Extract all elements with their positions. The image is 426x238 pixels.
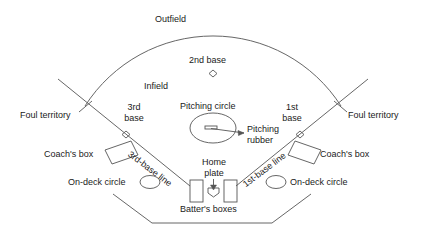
on-deck-circle-left-label: On-deck circle: [68, 177, 126, 188]
on-deck-circle-right-shape: [266, 176, 286, 189]
first-base-label-line1: 1st: [286, 102, 298, 112]
third-base-label-line2: base: [124, 113, 144, 123]
pitching-circle-shape: [190, 113, 236, 143]
coachs-box-right-shape: [288, 141, 321, 164]
third-base-label: 3rd base: [119, 102, 149, 123]
first-base-label: 1st base: [277, 102, 307, 123]
batters-boxes-label: Batter's boxes: [180, 204, 237, 215]
home-plate-label-line2: plate: [204, 168, 224, 178]
outfield-label: Outfield: [155, 14, 186, 25]
pitching-rubber-label-line2: rubber: [247, 135, 273, 145]
second-base-marker: [209, 70, 217, 77]
coachs-box-right-label: Coach's box: [320, 149, 369, 160]
third-base-label-line1: 3rd: [127, 102, 140, 112]
left-foul-line-tick: [79, 101, 92, 112]
second-base-label: 2nd base: [189, 55, 226, 66]
baseball-field-diagram: Outfield Infield 2nd base 3rd base 1st b…: [0, 0, 426, 238]
first-base-label-line2: base: [282, 113, 302, 123]
pitching-rubber-label-line1: Pitching: [247, 124, 279, 134]
foul-territory-right-label: Foul territory: [348, 110, 399, 121]
coachs-box-left-label: Coach's box: [44, 149, 93, 160]
home-plate-label-line1: Home: [202, 157, 226, 167]
home-plate-label: Home plate: [196, 157, 232, 178]
batters-box-right-shape: [224, 180, 237, 202]
infield-label: Infield: [144, 81, 168, 92]
batters-box-left-shape: [190, 180, 203, 202]
outfield-arc: [85, 36, 341, 106]
foul-territory-left-label: Foul territory: [20, 110, 71, 121]
home-plate-arrowhead: [211, 185, 217, 190]
pitching-circle-label: Pitching circle: [180, 101, 236, 112]
right-foul-line-tick: [334, 101, 347, 112]
on-deck-circle-right-label: On-deck circle: [290, 177, 348, 188]
pitching-rubber-label: Pitching rubber: [247, 124, 291, 145]
pitching-rubber-arrowhead: [238, 131, 244, 136]
